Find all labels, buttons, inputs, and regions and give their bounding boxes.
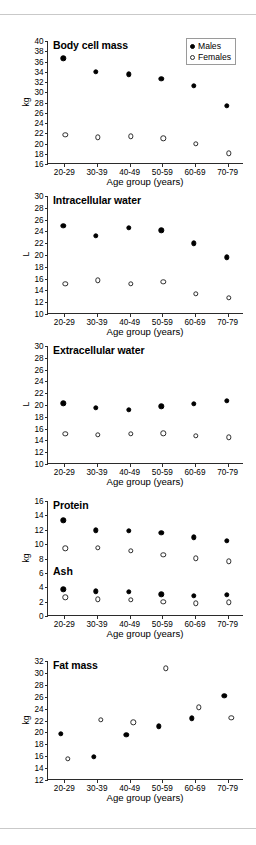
data-point-females <box>193 555 198 560</box>
y-axis-tick <box>45 721 49 722</box>
data-point-females <box>128 134 133 139</box>
y-axis-tick-label: 16 <box>34 424 43 433</box>
y-axis-tick <box>45 559 49 560</box>
data-point-males <box>126 528 131 533</box>
x-axis-title: Age group (years) <box>47 326 243 337</box>
y-axis-tick-label: 8 <box>39 554 44 563</box>
x-axis-tick <box>97 163 98 167</box>
data-point-females <box>161 552 166 557</box>
x-axis-tick <box>130 313 131 317</box>
y-axis-tick <box>45 756 49 757</box>
figure-body-composition-by-age: 1618202224262830323436384020-2930-3940-4… <box>0 0 256 845</box>
y-axis-tick <box>45 302 49 303</box>
data-point-males <box>61 56 66 61</box>
y-axis-tick <box>45 164 49 165</box>
data-point-females <box>95 597 100 602</box>
y-axis-tick-label: 10 <box>34 310 43 319</box>
x-axis-tick <box>195 313 196 317</box>
data-point-males <box>224 103 229 108</box>
y-axis-tick-label: 30 <box>34 668 43 677</box>
y-axis-tick-label: 22 <box>34 129 43 138</box>
data-point-males <box>93 233 98 238</box>
data-point-females <box>63 132 68 137</box>
y-axis-tick-label: 30 <box>34 192 43 201</box>
y-axis-tick-label: 22 <box>34 389 43 398</box>
data-point-females <box>63 595 68 600</box>
y-axis-tick <box>45 429 49 430</box>
y-axis-tick <box>45 220 49 221</box>
y-axis-tick <box>45 573 49 574</box>
data-point-females <box>226 151 231 156</box>
y-axis-tick-label: 28 <box>34 98 43 107</box>
y-axis-tick-label: 14 <box>34 764 43 773</box>
data-point-males <box>189 715 194 720</box>
data-point-females <box>63 431 68 436</box>
data-point-males <box>126 72 131 77</box>
y-axis-tick <box>45 732 49 733</box>
y-axis-tick-label: 22 <box>34 716 43 725</box>
data-point-females <box>161 136 166 141</box>
y-axis-tick-label: 24 <box>34 377 43 386</box>
data-point-males <box>224 398 229 403</box>
y-axis-tick <box>45 196 49 197</box>
plot-area: 101214161820222426283020-2930-3940-4950-… <box>47 196 243 314</box>
x-axis-tick <box>162 463 163 467</box>
data-point-males <box>191 240 196 245</box>
data-point-males <box>126 225 131 230</box>
y-axis-tick-label: 18 <box>34 740 43 749</box>
x-axis-title: Age group (years) <box>47 628 243 639</box>
y-axis-tick-label: 12 <box>34 448 43 457</box>
y-axis-tick-label: 26 <box>34 365 43 374</box>
y-axis-tick-label: 26 <box>34 692 43 701</box>
data-point-males <box>221 693 226 698</box>
y-axis-tick <box>45 685 49 686</box>
y-axis-tick-label: 32 <box>34 657 43 666</box>
data-point-males <box>126 407 131 412</box>
x-axis-tick <box>130 779 131 783</box>
data-point-males <box>58 731 63 736</box>
data-point-males <box>159 76 164 81</box>
y-axis-tick-label: 16 <box>34 752 43 761</box>
data-point-females <box>128 431 133 436</box>
data-point-females <box>63 281 68 286</box>
y-axis-tick <box>45 768 49 769</box>
x-axis-tick <box>64 163 65 167</box>
y-axis-tick <box>45 92 49 93</box>
data-point-males <box>159 228 164 233</box>
y-axis-tick-label: 14 <box>34 286 43 295</box>
data-point-males <box>93 405 98 410</box>
y-axis-tick-label: 30 <box>34 342 43 351</box>
y-axis-tick <box>45 103 49 104</box>
panel-subtitle: Ash <box>53 565 73 577</box>
x-axis-tick <box>195 779 196 783</box>
data-point-males <box>191 593 196 598</box>
x-axis-tick <box>195 463 196 467</box>
y-axis-tick-label: 18 <box>34 262 43 271</box>
data-point-males <box>93 589 98 594</box>
y-axis-tick <box>45 72 49 73</box>
y-axis-tick <box>45 744 49 745</box>
y-axis-tick-label: 20 <box>34 251 43 260</box>
y-axis-tick <box>45 673 49 674</box>
y-axis-tick <box>45 267 49 268</box>
y-axis-tick <box>45 452 49 453</box>
data-point-males <box>61 518 66 523</box>
y-axis-tick <box>45 602 49 603</box>
y-axis-tick-label: 2 <box>39 597 44 606</box>
data-point-males <box>224 592 229 597</box>
y-axis-tick <box>45 290 49 291</box>
y-axis-tick <box>45 255 49 256</box>
y-axis-tick <box>45 243 49 244</box>
x-axis-tick <box>195 163 196 167</box>
y-axis-tick-label: 12 <box>34 525 43 534</box>
y-axis-tick-label: 0 <box>39 612 44 621</box>
chart-legend: MalesFemales <box>186 38 236 65</box>
y-axis-tick-label: 28 <box>34 203 43 212</box>
legend-item-females: Females <box>190 52 231 62</box>
y-axis-tick <box>45 440 49 441</box>
y-axis-tick-label: 4 <box>39 583 44 592</box>
y-axis-title: L <box>21 244 31 264</box>
y-axis-tick <box>45 133 49 134</box>
x-axis-tick <box>228 463 229 467</box>
y-axis-tick-label: 12 <box>34 298 43 307</box>
